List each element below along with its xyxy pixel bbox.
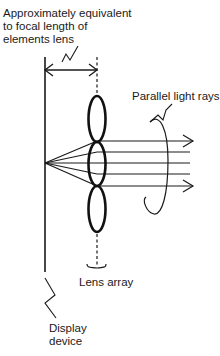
lens-array-bracket-icon [87, 264, 106, 268]
display-device-label-line-2: device [49, 335, 87, 348]
lens-array-label: Lens array [79, 276, 133, 289]
focal-leader-zigzag-icon [62, 46, 78, 62]
display-device-label: Display device [49, 322, 87, 348]
focal-length-arrow-icon [45, 64, 97, 76]
focal-length-label-line-3: elements lens [3, 33, 132, 46]
parallel-rays-leader-zigzag-icon [150, 104, 172, 122]
focal-length-label-line-1: Approximately equivalent [3, 7, 132, 20]
parallel-rays-loop [144, 119, 168, 214]
parallel-rays [97, 135, 193, 192]
focal-length-label: Approximately equivalent to focal length… [3, 7, 132, 46]
display-device-label-line-1: Display [49, 322, 87, 335]
display-leader-zigzag-icon [45, 278, 56, 318]
parallel-rays-label: Parallel light rays [132, 90, 220, 103]
lens-element-top [89, 96, 106, 142]
lens-element-bottom [89, 186, 106, 232]
focal-length-label-line-2: to focal length of [3, 20, 132, 33]
lens-array [89, 96, 106, 232]
lens-element-middle [89, 142, 106, 186]
lens-array-diagram [0, 0, 220, 356]
